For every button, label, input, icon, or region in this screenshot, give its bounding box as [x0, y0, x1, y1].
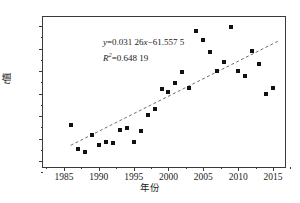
y-tick [39, 94, 43, 95]
data-point [264, 92, 268, 96]
y-tick [39, 116, 43, 117]
data-point [187, 86, 191, 90]
equation-body: =0.031 26 [107, 37, 144, 47]
y-tick-minor [41, 37, 43, 38]
data-point [97, 143, 101, 147]
r-squared-line: R2=0.648 19 [103, 49, 184, 65]
x-tick-minor [290, 167, 291, 169]
data-point [271, 86, 275, 90]
x-tick-minor [221, 167, 222, 169]
x-tick [273, 167, 274, 171]
x-tick-minor [81, 167, 82, 169]
data-point [139, 129, 143, 133]
y-tick [39, 49, 43, 50]
y-tick-minor [41, 150, 43, 151]
x-tick-minor [186, 167, 187, 169]
data-point [132, 140, 136, 144]
x-axis-title: 年份 [0, 180, 300, 194]
equation-line: y=0.031 26x−61.557 5 [103, 36, 184, 49]
y-tick [39, 71, 43, 72]
data-point [125, 126, 129, 130]
y-tick-minor [41, 82, 43, 83]
data-point [83, 150, 87, 154]
data-point [194, 29, 198, 33]
data-point [146, 113, 150, 117]
data-point [215, 69, 219, 73]
regression-annotation: y=0.031 26x−61.557 5 R2=0.648 19 [103, 36, 184, 64]
data-point [243, 74, 247, 78]
y-tick-minor [41, 60, 43, 61]
data-point [76, 147, 80, 151]
data-point [229, 25, 233, 29]
data-point [180, 70, 184, 74]
x-tick-minor [116, 167, 117, 169]
data-point [173, 81, 177, 85]
x-tick [203, 167, 204, 171]
data-point [250, 49, 254, 53]
data-point [118, 128, 122, 132]
scatter-chart: 0.40.60.81.01.21.41.6 198519901995200020… [0, 0, 300, 203]
y-tick [39, 139, 43, 140]
data-point [69, 123, 73, 127]
data-point [222, 60, 226, 64]
y-tick-minor [41, 105, 43, 106]
x-tick [64, 167, 65, 171]
x-tick-minor [46, 167, 47, 169]
y-tick [39, 26, 43, 27]
x-tick [238, 167, 239, 171]
data-point [90, 133, 94, 137]
y-axis-title: t值 [0, 72, 13, 85]
data-point [236, 69, 240, 73]
data-point [166, 90, 170, 94]
data-point [104, 140, 108, 144]
data-point [201, 38, 205, 42]
y-tick-minor [41, 127, 43, 128]
x-tick [168, 167, 169, 171]
x-tick-minor [256, 167, 257, 169]
r-squared-value: =0.648 19 [112, 53, 149, 63]
data-point [111, 141, 115, 145]
x-tick [99, 167, 100, 171]
plot-area: 0.40.60.81.01.21.41.6 198519901995200020… [42, 16, 286, 168]
data-point [208, 50, 212, 54]
equation-tail: −61.557 5 [148, 37, 185, 47]
y-tick [39, 161, 43, 162]
y-tick-minor [41, 172, 43, 173]
data-point [257, 62, 261, 66]
x-tick [134, 167, 135, 171]
data-point [160, 87, 164, 91]
data-point [153, 107, 157, 111]
x-tick-minor [151, 167, 152, 169]
